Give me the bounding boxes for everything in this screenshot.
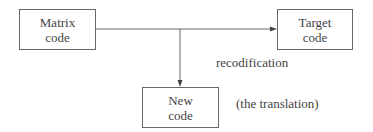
new-code-line1: New [168, 93, 193, 108]
target-code-node: Targetcode [277, 9, 353, 50]
matrix-code-node: Matrixcode [19, 9, 96, 50]
translation-label: (the translation) [236, 96, 319, 112]
target-code-line2: code [303, 30, 328, 45]
matrix-code-line2: code [45, 30, 70, 45]
new-code-line2: code [168, 108, 193, 123]
target-code-line1: Target [299, 15, 332, 30]
matrix-code-line1: Matrix [40, 15, 75, 30]
new-code-node: Newcode [142, 87, 219, 128]
recodification-label: recodification [216, 55, 288, 71]
